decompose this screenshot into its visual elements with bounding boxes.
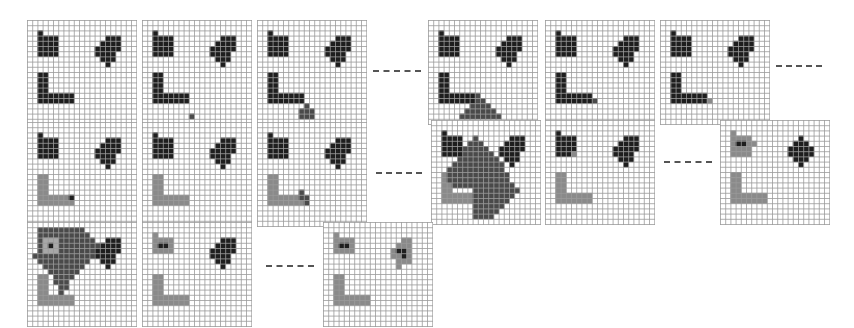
grid-panel-r1c4 [428,20,538,125]
grid-canvas [720,120,830,225]
grid-panel-r2c6 [720,120,830,225]
ellipsis-connector [776,65,822,67]
grid-panel-r2c4 [431,120,541,225]
grid-panel-r2c2 [142,122,252,227]
grid-panel-r2c5 [545,120,655,225]
grid-canvas [142,222,252,327]
grid-canvas [257,20,367,125]
grid-panel-r3c3 [323,222,433,327]
grid-panel-r1c5 [545,20,655,125]
grid-canvas [257,122,367,227]
grid-panel-r1c6 [660,20,770,125]
grid-canvas [545,20,655,125]
grid-panel-r2c3 [257,122,367,227]
grid-canvas [142,20,252,125]
grid-panel-r2c1 [27,122,137,227]
grid-canvas [323,222,433,327]
grid-panel-r3c1 [27,222,137,327]
grid-canvas [428,20,538,125]
ellipsis-connector [664,161,712,163]
grid-canvas [660,20,770,125]
grid-panel-r3c2 [142,222,252,327]
grid-canvas [27,20,137,125]
grid-canvas [27,122,137,227]
grid-canvas [142,122,252,227]
grid-canvas [27,222,137,327]
grid-panel-r1c2 [142,20,252,125]
grid-panel-r1c3 [257,20,367,125]
grid-panel-r1c1 [27,20,137,125]
ellipsis-connector [376,172,422,174]
grid-canvas [545,120,655,225]
ellipsis-connector [266,265,314,267]
ellipsis-connector [373,70,421,72]
grid-canvas [431,120,541,225]
